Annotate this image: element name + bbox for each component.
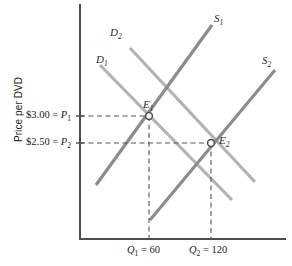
curve-label-d1: D1 <box>96 54 108 68</box>
x-tick-sub-q2: 2 <box>197 249 201 258</box>
y-tick-amount-p2: $2.50 <box>26 136 50 147</box>
equilibrium-label-e1-symbol: E <box>143 98 150 110</box>
guideline-group-e1 <box>80 116 149 239</box>
y-tick-label-p2: $2.50 = P2 <box>26 137 71 150</box>
supply-curves-group <box>96 25 275 220</box>
x-tick-symbol-q1: Q <box>127 244 135 255</box>
equilibrium-label-e1: E1 <box>143 99 153 113</box>
curve-label-d2-sub: 2 <box>118 32 122 41</box>
y-axis-title: Price per DVD <box>13 60 24 160</box>
x-tick-amount-q2: 120 <box>212 244 228 255</box>
curve-label-s2: S2 <box>262 55 271 69</box>
supply-demand-figure: Price per DVD $3.00 = P1 $2.50 = P2 Q1 =… <box>0 0 292 266</box>
curve-label-d2-symbol: D <box>110 26 118 38</box>
y-tick-label-p1: $3.00 = P1 <box>26 110 71 123</box>
equilibrium-label-e1-sub: 1 <box>150 104 154 113</box>
equilibrium-marker-e2 <box>208 140 215 147</box>
curve-label-d1-symbol: D <box>96 53 104 65</box>
x-tick-sub-q1: 1 <box>135 249 139 258</box>
curve-label-d2: D2 <box>110 27 122 41</box>
plot-canvas <box>0 0 292 266</box>
curve-label-s1: S1 <box>214 13 223 27</box>
x-tick-label-q1: Q1 = 60 <box>127 245 160 258</box>
equilibrium-label-e2-sub: 2 <box>226 140 230 149</box>
y-tick-sub-p1: 1 <box>67 114 71 123</box>
x-tick-amount-q1: 60 <box>150 244 161 255</box>
curve-label-d1-sub: 1 <box>104 59 108 68</box>
curve-label-s1-sub: 1 <box>220 18 224 27</box>
x-tick-label-q2: Q2 = 120 <box>189 245 227 258</box>
equilibrium-label-e2: E2 <box>219 135 229 149</box>
curve-label-s2-sub: 2 <box>268 60 272 69</box>
equilibrium-marker-e1 <box>146 113 153 120</box>
x-tick-symbol-q2: Q <box>189 244 197 255</box>
y-tick-sub-p2: 2 <box>67 141 71 150</box>
y-tick-amount-p1: $3.00 <box>26 109 50 120</box>
equilibrium-label-e2-symbol: E <box>219 134 226 146</box>
